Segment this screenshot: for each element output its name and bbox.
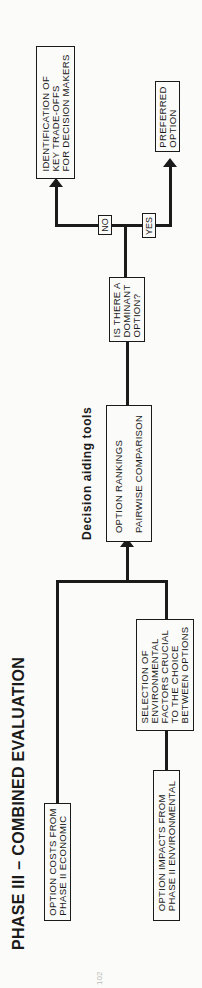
label-no: NO <box>98 215 112 235</box>
box-option-impacts: OPTION IMPACTS FROM PHASE II ENVIRONMENT… <box>153 770 180 921</box>
box-trade-offs-text: IDENTIFICATION OF KEY TRADE-OFFS FOR DEC… <box>41 54 71 171</box>
connector-selection-vertical <box>165 580 168 620</box>
box-selection-text: SELECTION OF ENVIRONMENTAL FACTORS CRUCI… <box>140 627 190 724</box>
box-dominant-question: IS THERE A DOMINANT OPTION? <box>109 277 145 342</box>
connector-merge-horizontal <box>56 580 168 583</box>
box-option-impacts-text: OPTION IMPACTS FROM PHASE II ENVIRONMENT… <box>157 780 177 910</box>
arrow-up-icon <box>49 178 63 187</box>
connector-tools-to-question <box>126 340 129 405</box>
decision-tools-label: Decision aiding tools <box>80 407 94 540</box>
box-decision-tools-text: OPTION RANKINGS PAIRWISE COMPARISON <box>114 414 144 532</box>
box-preferred-option: PREFERRED OPTION <box>155 81 180 152</box>
box-trade-offs: IDENTIFICATION OF KEY TRADE-OFFS FOR DEC… <box>36 46 75 179</box>
label-yes-text: YES <box>144 216 154 234</box>
connector-costs-vertical <box>56 580 59 805</box>
label-no-text: NO <box>100 218 110 232</box>
box-option-costs: OPTION COSTS FROM PHASE II ECONOMIC <box>44 803 71 921</box>
page-number: 102 <box>95 972 104 985</box>
box-decision-tools: OPTION RANKINGS PAIRWISE COMPARISON <box>106 405 152 542</box>
connector-question-to-branch <box>124 225 127 280</box>
connector-yes-vertical <box>169 165 172 226</box>
box-selection: SELECTION OF ENVIRONMENTAL FACTORS CRUCI… <box>136 619 194 731</box>
box-option-costs-text: OPTION COSTS FROM PHASE II ECONOMIC <box>48 808 68 916</box>
connector-impacts-vertical <box>165 730 168 775</box>
arrow-up-icon <box>163 158 177 167</box>
label-yes: YES <box>142 213 156 238</box>
box-preferred-option-text: PREFERRED OPTION <box>158 86 178 147</box>
box-dominant-question-text: IS THERE A DOMINANT OPTION? <box>112 282 142 337</box>
diagram-title: PHASE III – COMBINED EVALUATION <box>10 657 28 950</box>
